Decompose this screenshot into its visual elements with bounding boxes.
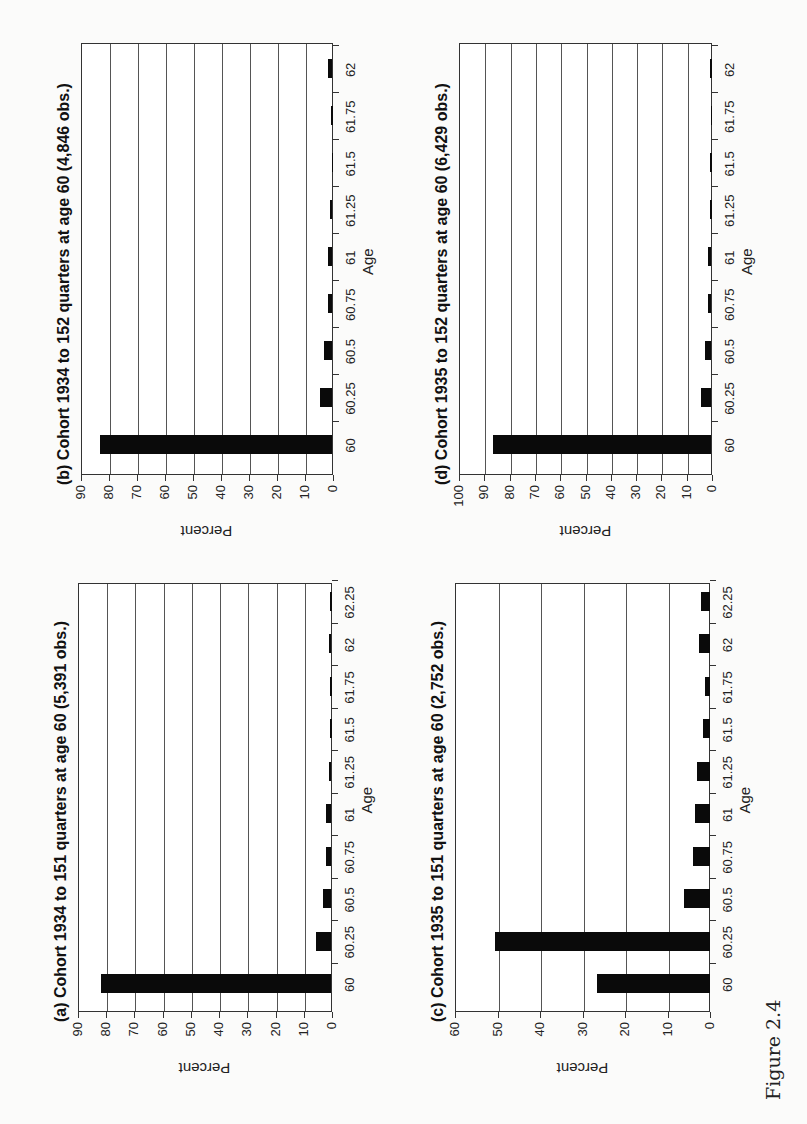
gridline [305, 584, 306, 1011]
y-tick [276, 1012, 277, 1018]
y-tick-label: 80 [98, 1022, 113, 1056]
y-tick [332, 1012, 333, 1018]
bar-60.75 [326, 847, 332, 866]
y-tick-label: 30 [239, 1022, 254, 1056]
y-tick-label: 60 [447, 1022, 462, 1056]
gridline [135, 584, 136, 1011]
y-tick-label: 80 [502, 485, 517, 519]
x-tick [710, 665, 716, 666]
gridline [662, 44, 663, 474]
x-tick-label: 62.25 [342, 578, 357, 628]
y-tick [455, 1012, 456, 1018]
bar-62 [699, 634, 710, 653]
y-tick-label: 20 [269, 485, 284, 519]
bar-61.75 [331, 106, 333, 125]
x-tick [332, 878, 338, 879]
y-tick-label: 60 [157, 485, 172, 519]
panel-title: (a) Cohort 1934 to 151 quarters at age 6… [52, 621, 70, 1022]
x-tick [332, 920, 338, 921]
gridline [278, 44, 279, 474]
bar-61.25 [329, 762, 332, 781]
y-tick [625, 1012, 626, 1018]
y-tick [611, 475, 612, 481]
gridline [164, 584, 165, 1011]
y-tick [535, 475, 536, 481]
gridline [637, 44, 638, 474]
y-tick-label: 70 [126, 1022, 141, 1056]
gridline [110, 44, 111, 474]
bar-60.25 [316, 932, 332, 951]
gridline [485, 44, 486, 474]
x-tick [710, 878, 716, 879]
y-tick [304, 1012, 305, 1018]
gridline [138, 44, 139, 474]
y-tick [712, 475, 713, 481]
y-tick [109, 475, 110, 481]
gridline [166, 44, 167, 474]
figure-page: Figure 2.4 (a) Cohort 1934 to 151 quarte… [0, 0, 807, 1124]
gridline [612, 44, 613, 474]
y-tick [636, 475, 637, 481]
x-tick [332, 835, 338, 836]
x-tick-label: 60.25 [722, 374, 737, 424]
plot-area [78, 583, 332, 1012]
y-axis-title: Percent [542, 1060, 622, 1077]
bar-60 [597, 974, 710, 993]
x-tick [712, 233, 718, 234]
y-tick [484, 475, 485, 481]
figure-label: Figure 2.4 [762, 1000, 784, 1100]
x-tick [333, 421, 339, 422]
x-tick-label: 61.75 [722, 92, 737, 142]
gridline [561, 44, 562, 474]
bar-60.5 [323, 889, 331, 908]
y-tick [661, 475, 662, 481]
y-tick [459, 475, 460, 481]
y-tick [583, 1012, 584, 1018]
bar-60 [100, 435, 332, 454]
x-tick [712, 327, 718, 328]
bar-61.25 [697, 762, 710, 781]
y-tick [540, 1012, 541, 1018]
bar-61 [328, 247, 332, 266]
x-tick [712, 92, 718, 93]
x-tick [712, 186, 718, 187]
bar-61 [326, 804, 332, 823]
gridline [688, 44, 689, 474]
y-tick-label: 50 [185, 485, 200, 519]
gridline [222, 44, 223, 474]
y-tick-label: 40 [213, 485, 228, 519]
gridline [192, 584, 193, 1011]
bar-60.5 [324, 341, 332, 360]
x-tick [710, 920, 716, 921]
bar-62.25 [330, 592, 332, 611]
x-tick [712, 45, 718, 46]
plot-area [81, 43, 333, 475]
gridline [248, 584, 249, 1011]
x-axis-title: Age [738, 248, 755, 275]
y-tick-label: 60 [552, 485, 567, 519]
x-tick [710, 580, 716, 581]
plot-area [459, 43, 712, 475]
y-axis-title: Percent [167, 523, 247, 540]
y-tick [687, 475, 688, 481]
x-tick-label: 62.25 [720, 578, 735, 628]
y-tick-label: 70 [129, 485, 144, 519]
bar-61 [708, 247, 712, 266]
y-tick-label: 20 [268, 1022, 283, 1056]
x-tick [712, 280, 718, 281]
x-tick [333, 327, 339, 328]
x-tick-label: 61.25 [343, 186, 358, 236]
y-tick-label: 40 [211, 1022, 226, 1056]
y-tick-label: 100 [451, 485, 466, 519]
y-axis-title: Percent [545, 523, 625, 540]
x-tick-label: 60 [343, 421, 358, 471]
x-tick [333, 45, 339, 46]
y-tick-label: 10 [296, 1022, 311, 1056]
y-tick-label: 10 [679, 485, 694, 519]
y-tick [498, 1012, 499, 1018]
gridline [194, 44, 195, 474]
y-tick [219, 1012, 220, 1018]
x-tick [332, 963, 338, 964]
plot-area [455, 583, 710, 1012]
y-tick [247, 1012, 248, 1018]
